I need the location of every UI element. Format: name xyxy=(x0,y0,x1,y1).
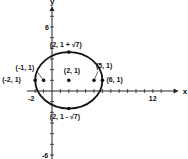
data-point xyxy=(101,79,105,83)
x-tick-label: 12 xyxy=(149,95,157,102)
ellipse-chart: xy-2126-6(2, 1)(-1, 1)(5, 1)(-2, 1)(6, 1… xyxy=(0,0,188,159)
point-label: (5, 1) xyxy=(96,62,112,70)
x-tick-label: -2 xyxy=(28,95,34,102)
point-label: (6, 1) xyxy=(106,76,122,84)
data-point xyxy=(67,79,71,83)
y-tick-label: -6 xyxy=(42,152,48,159)
point-label: (-1, 1) xyxy=(16,64,35,72)
y-tick-label: 6 xyxy=(45,24,49,31)
leader-line xyxy=(94,71,98,80)
point-label: (2, 1) xyxy=(64,67,80,75)
y-axis-label: y xyxy=(50,0,55,6)
x-axis-arrow xyxy=(174,89,179,94)
point-label: (2, 1 - √7) xyxy=(50,113,80,121)
point-label: (2, 1 + √7) xyxy=(50,41,82,49)
data-point xyxy=(33,79,37,83)
x-axis-label: x xyxy=(183,87,188,96)
data-point xyxy=(67,50,71,54)
y-axis-arrow xyxy=(50,6,55,11)
leader-line xyxy=(38,72,44,80)
point-label: (-2, 1) xyxy=(2,76,21,84)
data-point xyxy=(67,107,71,111)
